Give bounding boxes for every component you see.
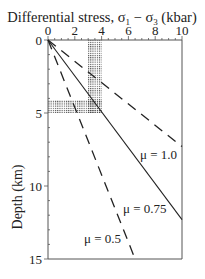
x-tick-labels: 0 2 4 6 8 10 [45,23,189,38]
svg-text:5: 5 [36,106,43,121]
y-axis-label: Depth (km) [10,164,26,229]
annotations: μ = 1.0 μ = 0.75 μ = 0.5 [84,147,177,246]
svg-text:15: 15 [29,252,42,267]
label-mu-1-0: μ = 1.0 [140,147,177,162]
svg-text:8: 8 [152,23,159,38]
y-ticks [44,40,50,259]
y-tick-labels: 0 5 10 15 [29,33,42,267]
x-ticks [48,36,182,40]
svg-text:10: 10 [29,179,42,194]
svg-text:6: 6 [125,23,132,38]
label-mu-0-75: μ = 0.75 [123,201,167,216]
svg-text:0: 0 [36,33,43,48]
stress-depth-chart: Differential stress, σ1 − σ3 (kbar) 0 2 … [0,0,205,279]
svg-text:0: 0 [45,23,52,38]
label-mu-0-5: μ = 0.5 [84,231,121,246]
svg-text:2: 2 [72,23,79,38]
svg-text:4: 4 [98,23,105,38]
svg-text:10: 10 [176,23,189,38]
